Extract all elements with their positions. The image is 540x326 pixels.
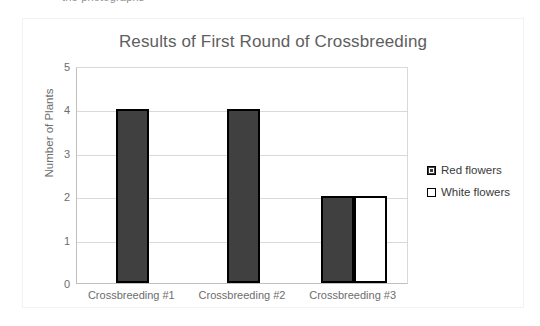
x-axis-tick-label: Crossbreeding #2 — [199, 289, 286, 301]
x-axis-tick-label: Crossbreeding #3 — [309, 289, 396, 301]
y-axis-tick-labels: 012345 — [46, 67, 70, 284]
y-axis-tick-label: 5 — [48, 61, 70, 73]
chart-figure: Results of First Round of Crossbreeding … — [22, 18, 524, 308]
legend-label: White flowers — [441, 186, 510, 198]
chart-legend: Red flowersWhite flowers — [427, 159, 523, 203]
cut-off-text: the photographs — [62, 0, 145, 3]
cut-off-text-sliver: the photographs — [0, 0, 540, 7]
legend-item-2[interactable]: White flowers — [427, 181, 523, 203]
bar-3-2 — [354, 196, 387, 283]
bar-2-1 — [227, 109, 260, 283]
plot-area — [76, 67, 408, 284]
x-axis-tick-label: Crossbreeding #1 — [88, 289, 175, 301]
y-axis-tick-label: 4 — [48, 104, 70, 116]
legend-swatch-red-icon — [427, 166, 436, 175]
chart-title: Results of First Round of Crossbreeding — [23, 32, 523, 52]
bar-3-1 — [321, 196, 354, 283]
legend-swatch-white-icon — [427, 188, 436, 197]
y-axis-tick-label: 1 — [48, 235, 70, 247]
y-axis-tick-label: 2 — [48, 191, 70, 203]
y-axis-tick-label: 3 — [48, 148, 70, 160]
legend-item-1[interactable]: Red flowers — [427, 159, 523, 181]
y-axis-tick-label: 0 — [48, 278, 70, 290]
legend-label: Red flowers — [441, 164, 502, 176]
bar-1-1 — [116, 109, 149, 283]
